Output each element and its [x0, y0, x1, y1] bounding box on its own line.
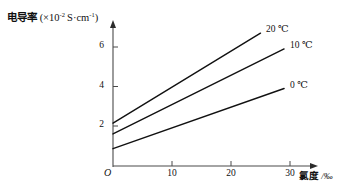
- x-tick-label-20: 20: [221, 168, 241, 178]
- series-line-10c: [113, 49, 284, 134]
- origin-label: O: [104, 167, 111, 178]
- series-label-0c: 0 ℃: [290, 79, 308, 90]
- series-line-0c: [113, 88, 284, 148]
- x-tick-label-30: 30: [280, 168, 300, 178]
- y-tick-label-4: 4: [90, 80, 104, 90]
- y-axis-arrowhead: [110, 20, 116, 28]
- series-line-20c: [113, 33, 261, 123]
- series-label-10c: 10 ℃: [290, 39, 313, 50]
- x-axis-label-name: 氯度: [299, 171, 319, 181]
- plot-area: [0, 0, 342, 195]
- x-axis-label-unit: /‰: [319, 171, 333, 181]
- x-tick-label-10: 10: [162, 168, 182, 178]
- x-axis-label: 氯度 /‰: [299, 168, 333, 182]
- series-label-20c: 20 ℃: [266, 23, 289, 34]
- chart-figure: 电导率 (×10-2 S·cm-1) O 2 4 6 10 20 30 20 ℃…: [0, 0, 342, 195]
- y-tick-label-6: 6: [90, 40, 104, 50]
- y-tick-label-2: 2: [90, 119, 104, 129]
